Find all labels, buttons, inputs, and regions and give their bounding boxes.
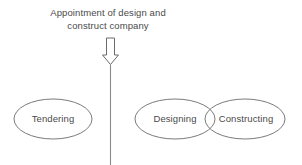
- down-block-arrow-icon: [103, 38, 119, 65]
- node-label-designing: Designing: [138, 113, 212, 124]
- diagram-shapes-layer: [0, 0, 302, 165]
- node-label-tendering: Tendering: [14, 113, 92, 124]
- diagram-canvas: Appointment of design and construct comp…: [0, 0, 302, 165]
- node-label-constructing: Constructing: [206, 113, 286, 124]
